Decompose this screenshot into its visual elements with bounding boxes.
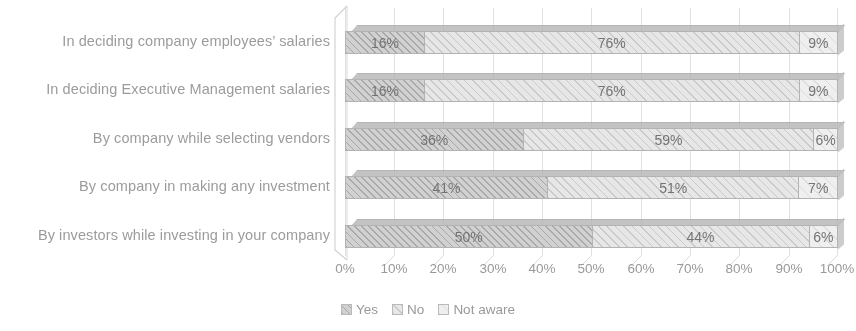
hatch-swatch-not-aware-icon — [438, 304, 449, 315]
legend-label-no: No — [407, 303, 424, 317]
x-tick-100: 100% — [820, 262, 855, 276]
bar-side-face-0 — [838, 23, 844, 55]
bar-segment-not-aware-1: 9% — [799, 79, 838, 102]
bar-value-label: 9% — [808, 36, 828, 50]
bar-segment-yes-1: 16% — [345, 79, 424, 102]
bar-value-label: 16% — [371, 36, 399, 50]
table-row: 16% 76% 9% — [345, 25, 838, 55]
bar-1: 16% 76% 9% — [345, 79, 838, 102]
x-tick-30: 30% — [479, 262, 506, 276]
x-tick-0: 0% — [335, 262, 355, 276]
bar-value-label: 50% — [455, 230, 483, 244]
bar-side-face-4 — [838, 217, 844, 249]
legend-item-yes[interactable]: Yes — [341, 303, 378, 317]
bar-segment-not-aware-3: 7% — [798, 176, 838, 199]
category-label-3: By company in making any investment — [0, 179, 330, 194]
legend-item-no[interactable]: No — [392, 303, 424, 317]
x-tick-40: 40% — [528, 262, 555, 276]
chart-legend: Yes No Not aware — [0, 303, 856, 317]
table-row: 41% 51% 7% — [345, 170, 838, 200]
bar-value-label: 59% — [654, 133, 682, 147]
x-tick-20: 20% — [429, 262, 456, 276]
stacked-bar-chart: In deciding company employees’ salaries … — [0, 0, 856, 331]
x-tick-10: 10% — [380, 262, 407, 276]
bar-value-label: 6% — [816, 133, 836, 147]
bar-value-label: 41% — [433, 181, 461, 195]
table-row: 36% 59% 6% — [345, 122, 838, 152]
bar-2: 36% 59% 6% — [345, 128, 838, 151]
bar-value-label: 51% — [659, 181, 687, 195]
hatch-swatch-no-icon — [392, 304, 403, 315]
bar-segment-not-aware-2: 6% — [813, 128, 838, 151]
legend-label-not-aware: Not aware — [453, 303, 515, 317]
category-axis: In deciding company employees’ salaries … — [0, 0, 330, 262]
bar-segment-no-0: 76% — [424, 31, 799, 54]
legend-label-yes: Yes — [356, 303, 378, 317]
category-label-0: In deciding company employees’ salaries — [0, 34, 330, 49]
bar-value-label: 9% — [808, 84, 828, 98]
plot-area: 16% 76% 9% 16% 76% — [345, 8, 838, 260]
table-row: 16% 76% 9% — [345, 73, 838, 103]
bar-segment-no-2: 59% — [523, 128, 814, 151]
bar-segment-no-1: 76% — [424, 79, 799, 102]
category-label-1: In deciding Executive Management salarie… — [0, 82, 330, 97]
bar-value-label: 44% — [686, 230, 714, 244]
x-tick-70: 70% — [676, 262, 703, 276]
bar-3: 41% 51% 7% — [345, 176, 838, 199]
bar-side-face-2 — [838, 120, 844, 152]
bar-value-label: 76% — [598, 36, 626, 50]
x-tick-80: 80% — [725, 262, 752, 276]
bar-segment-not-aware-0: 9% — [799, 31, 838, 54]
category-label-4: By investors while investing in your com… — [0, 228, 330, 243]
bar-value-label: 6% — [813, 230, 833, 244]
x-tick-90: 90% — [775, 262, 802, 276]
bar-segment-yes-0: 16% — [345, 31, 424, 54]
bar-segment-not-aware-4: 6% — [809, 225, 839, 248]
value-axis: 0% 10% 20% 30% 40% 50% 60% 70% 80% 90% 1… — [345, 262, 838, 284]
bar-value-label: 7% — [808, 181, 828, 195]
bar-side-face-1 — [838, 71, 844, 103]
bar-value-label: 36% — [420, 133, 448, 147]
bar-0: 16% 76% 9% — [345, 31, 838, 54]
x-tick-50: 50% — [577, 262, 604, 276]
hatch-swatch-yes-icon — [341, 304, 352, 315]
table-row: 50% 44% 6% — [345, 219, 838, 249]
category-label-2: By company while selecting vendors — [0, 131, 330, 146]
bar-4: 50% 44% 6% — [345, 225, 838, 248]
bar-segment-yes-3: 41% — [345, 176, 547, 199]
bar-segment-no-4: 44% — [592, 225, 809, 248]
bar-segment-yes-4: 50% — [345, 225, 592, 248]
bar-value-label: 76% — [598, 84, 626, 98]
bar-segment-no-3: 51% — [547, 176, 798, 199]
legend-item-not-aware[interactable]: Not aware — [438, 303, 515, 317]
bar-side-face-3 — [838, 168, 844, 200]
x-tick-60: 60% — [627, 262, 654, 276]
bar-segment-yes-2: 36% — [345, 128, 523, 151]
bar-value-label: 16% — [371, 84, 399, 98]
